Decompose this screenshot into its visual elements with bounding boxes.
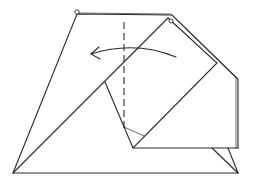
paper-outline	[13, 13, 238, 173]
diagonal-crease	[13, 18, 168, 173]
inner-flap	[105, 18, 217, 148]
reference-point-icon	[75, 10, 79, 14]
reference-point-icon	[169, 19, 173, 23]
origami-diagram: Origami folding step: valley fold along …	[0, 0, 255, 184]
bottom-right-point	[212, 148, 238, 173]
